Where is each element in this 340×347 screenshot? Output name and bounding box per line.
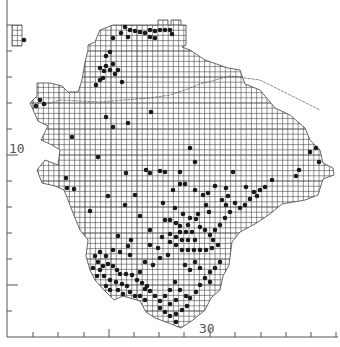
- record-dot: [180, 308, 185, 313]
- record-dot: [111, 264, 116, 269]
- tetrad-grid: [30, 18, 340, 330]
- record-dot: [138, 294, 143, 299]
- record-dot: [104, 64, 109, 69]
- record-dot: [153, 29, 158, 34]
- record-dot: [42, 102, 47, 107]
- record-dot: [98, 268, 103, 273]
- record-dot: [135, 278, 140, 283]
- record-dot: [153, 36, 158, 41]
- record-dot: [123, 25, 128, 30]
- record-dot: [138, 270, 143, 275]
- record-dot: [192, 248, 197, 253]
- record-dot: [171, 188, 176, 193]
- record-dot: [174, 235, 179, 240]
- record-dot: [207, 210, 212, 215]
- record-dot: [108, 278, 113, 283]
- record-dot: [163, 294, 168, 299]
- record-dot: [213, 228, 218, 233]
- record-dot: [133, 193, 138, 198]
- record-dot: [148, 28, 153, 33]
- record-dot: [193, 260, 198, 265]
- record-dot: [123, 203, 128, 208]
- record-dot: [308, 150, 313, 155]
- record-dot: [98, 66, 103, 71]
- record-dot: [193, 160, 198, 165]
- record-dot: [104, 115, 109, 120]
- record-dot: [166, 253, 171, 258]
- record-dot: [64, 176, 69, 181]
- record-dot: [163, 28, 168, 33]
- record-dot: [220, 198, 225, 203]
- record-dot: [255, 194, 260, 199]
- record-dot: [114, 280, 119, 285]
- record-dot: [190, 230, 195, 235]
- record-dot: [38, 98, 43, 103]
- record-dot: [174, 312, 179, 317]
- record-dot: [208, 270, 213, 275]
- record-dot: [120, 80, 125, 85]
- x-axis-label-30: 30: [199, 321, 215, 336]
- record-dot: [243, 203, 248, 208]
- record-dot: [186, 238, 191, 243]
- record-dot: [314, 146, 319, 151]
- record-dot: [206, 191, 211, 196]
- record-dot: [188, 146, 193, 151]
- record-dot: [224, 203, 229, 208]
- record-dot: [248, 197, 253, 202]
- record-dot: [106, 262, 111, 267]
- record-dot: [174, 298, 179, 303]
- record-dot: [158, 28, 163, 33]
- distribution-map: 10 30: [0, 0, 340, 347]
- record-dot: [198, 266, 203, 271]
- record-dot: [128, 290, 133, 295]
- y-axis-label-10: 10: [9, 141, 25, 156]
- record-dot: [173, 280, 178, 285]
- record-dot: [196, 212, 201, 217]
- record-dot: [211, 238, 216, 243]
- record-dot: [183, 182, 188, 187]
- record-dot: [204, 203, 209, 208]
- record-dot: [168, 28, 173, 33]
- record-dot: [140, 281, 145, 286]
- record-dot: [108, 50, 113, 55]
- record-dot: [218, 260, 223, 265]
- record-dot: [116, 288, 121, 293]
- record-dot: [174, 243, 179, 248]
- record-dot: [216, 243, 221, 248]
- record-dot: [184, 230, 189, 235]
- record-dot: [72, 187, 77, 192]
- record-dot: [153, 294, 158, 299]
- record-dot: [156, 246, 161, 251]
- record-dot: [178, 230, 183, 235]
- record-dots: [22, 25, 322, 325]
- record-dot: [168, 232, 173, 237]
- record-dot: [138, 214, 143, 219]
- record-dot: [158, 256, 163, 261]
- record-dot: [160, 235, 165, 240]
- record-dot: [111, 36, 116, 41]
- record-dot: [138, 30, 143, 35]
- record-dot: [126, 35, 131, 40]
- x-axis-ticks: [33, 329, 336, 337]
- record-dot: [181, 212, 186, 217]
- record-dot: [168, 240, 173, 245]
- record-dot: [70, 135, 75, 140]
- record-dot: [180, 238, 185, 243]
- record-dot: [231, 170, 236, 175]
- record-dot: [198, 248, 203, 253]
- record-dot: [198, 283, 203, 288]
- record-dot: [252, 190, 257, 195]
- record-dot: [158, 299, 163, 304]
- record-dot: [124, 272, 129, 277]
- record-dot: [111, 62, 116, 67]
- map-canvas: 10 30: [0, 0, 340, 347]
- record-dot: [224, 186, 229, 191]
- record-dot: [173, 206, 178, 211]
- record-dot: [96, 260, 101, 265]
- record-dot: [203, 228, 208, 233]
- record-dot: [108, 288, 113, 293]
- record-dot: [194, 290, 199, 295]
- record-dot: [186, 223, 191, 228]
- record-dot: [178, 170, 183, 175]
- record-dot: [128, 28, 133, 33]
